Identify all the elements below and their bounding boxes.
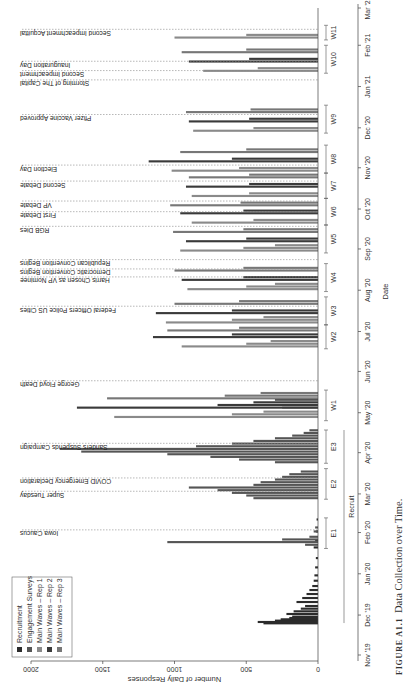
x-tick-label: Jul '20 bbox=[364, 321, 371, 341]
x-tick-label: Feb '21 bbox=[364, 34, 371, 57]
event-label: Pfizer Vaccine Approved bbox=[20, 114, 92, 122]
bar bbox=[263, 411, 318, 413]
event-label: COVID Emergency Declaration bbox=[20, 477, 112, 485]
event-label: First Debate bbox=[20, 212, 56, 219]
bar bbox=[246, 148, 318, 150]
legend-swatch bbox=[27, 647, 32, 652]
bar bbox=[246, 238, 318, 240]
x-tick-label: May '20 bbox=[364, 400, 372, 424]
caption-title: Data Collection over Time. bbox=[393, 499, 404, 613]
y-tick-label: 2000 bbox=[23, 666, 39, 673]
bar bbox=[275, 461, 318, 463]
event-label: Republican Convention Begins bbox=[19, 259, 110, 267]
bar bbox=[309, 589, 318, 591]
event-label: Second Debate bbox=[20, 182, 66, 189]
bar bbox=[210, 456, 318, 458]
period-label: W3 bbox=[330, 306, 337, 317]
event-label: Inauguration Day bbox=[19, 61, 70, 69]
event-label: RGB Dies bbox=[19, 227, 49, 234]
x-axis-label: Date bbox=[381, 284, 390, 300]
bar bbox=[114, 416, 318, 418]
bar bbox=[314, 546, 318, 548]
x-tick-label: Nov '19 bbox=[364, 643, 371, 667]
bar bbox=[314, 574, 318, 576]
event-label: George Floyd Death bbox=[20, 380, 80, 388]
bar bbox=[189, 120, 318, 122]
x-tick-label: Dec '20 bbox=[364, 116, 371, 140]
bar bbox=[107, 397, 318, 399]
bar bbox=[175, 36, 319, 38]
bar bbox=[275, 478, 318, 480]
bar bbox=[305, 544, 318, 546]
event-label: Iowa Caucus bbox=[19, 530, 58, 537]
bar bbox=[225, 395, 318, 397]
y-tick-label: 1500 bbox=[95, 666, 111, 673]
x-tick-label: Mar '20 bbox=[364, 482, 371, 505]
bar bbox=[189, 486, 318, 488]
bar bbox=[156, 312, 318, 314]
bar bbox=[292, 616, 318, 618]
bar bbox=[314, 530, 318, 532]
event-label: Storming of The Capital bbox=[19, 79, 89, 87]
bar bbox=[182, 345, 318, 347]
bar bbox=[249, 118, 318, 120]
bar bbox=[275, 244, 318, 246]
bar bbox=[275, 283, 318, 285]
bar bbox=[282, 538, 318, 540]
period-label: W4 bbox=[330, 272, 337, 283]
bar bbox=[243, 228, 318, 230]
y-axis-label: Number of Daily Responses bbox=[128, 675, 222, 684]
bar bbox=[246, 34, 318, 36]
bar bbox=[239, 459, 318, 461]
bar bbox=[246, 494, 318, 496]
period-label: E2 bbox=[330, 480, 337, 489]
bar bbox=[182, 279, 318, 281]
bar bbox=[304, 432, 318, 434]
bar bbox=[232, 158, 318, 160]
bar bbox=[239, 327, 318, 329]
plot-area bbox=[60, 34, 318, 625]
x-tick-label: Oct '20 bbox=[364, 198, 371, 220]
bar bbox=[218, 489, 318, 491]
bar bbox=[246, 343, 318, 345]
x-tick-label: Jun '20 bbox=[364, 360, 371, 382]
bar bbox=[77, 407, 318, 409]
bar bbox=[249, 183, 318, 185]
bar bbox=[239, 167, 318, 169]
bar bbox=[186, 186, 318, 188]
bar bbox=[243, 210, 318, 212]
bar bbox=[261, 392, 318, 394]
recruit-label: Recruit bbox=[348, 495, 355, 517]
bar bbox=[309, 536, 318, 538]
bar bbox=[312, 585, 318, 587]
x-tick-label: Aug '20 bbox=[364, 278, 372, 302]
bar bbox=[243, 247, 318, 249]
bar bbox=[258, 67, 318, 69]
bar bbox=[249, 174, 318, 176]
period-label: W8 bbox=[330, 154, 337, 165]
bar bbox=[315, 526, 318, 528]
event-label: Second Impeachment Acquittal bbox=[19, 29, 110, 37]
bar bbox=[218, 404, 318, 406]
bar bbox=[282, 476, 318, 478]
event-label: Federal Officers Police US Cities bbox=[19, 307, 116, 314]
legend-label: Recruitment bbox=[16, 605, 23, 643]
event-label: VP Debate bbox=[20, 202, 52, 209]
x-tick-label: Feb '20 bbox=[364, 521, 371, 544]
period-brackets: E1E2E3W1W2W3W4W5W6W7W8W9W10W11Recruit bbox=[324, 25, 355, 623]
bar bbox=[170, 204, 318, 206]
bar bbox=[253, 497, 318, 499]
bar bbox=[315, 566, 318, 568]
legend: RecruitmentEngagement SurveysMain Waves … bbox=[12, 576, 72, 657]
legend-swatch bbox=[57, 647, 62, 652]
legend-swatch bbox=[47, 647, 52, 652]
period-label: W11 bbox=[330, 26, 337, 40]
x-tick-label: Apr '20 bbox=[364, 442, 372, 464]
legend-label: Main Waves – Rep 1 bbox=[36, 578, 44, 643]
event-label: Second Impeachment bbox=[20, 70, 84, 78]
bar bbox=[232, 333, 318, 335]
bar bbox=[192, 222, 318, 224]
bar bbox=[251, 108, 318, 110]
bar bbox=[182, 51, 318, 53]
bar bbox=[180, 212, 318, 214]
